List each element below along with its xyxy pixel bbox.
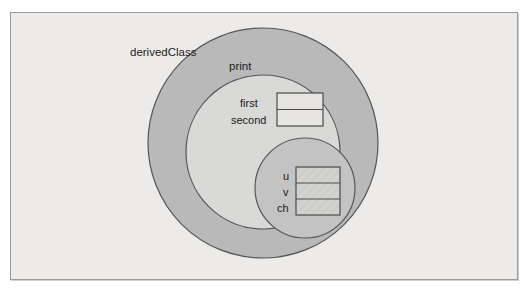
label-first: first (240, 97, 258, 109)
label-print: print (229, 60, 251, 72)
label-u: u (283, 170, 289, 182)
print-locals-box (277, 93, 323, 126)
label-ch: ch (277, 202, 289, 214)
diagram-root: derivedClass print first second u v ch (0, 0, 532, 293)
inner-locals-box (296, 167, 340, 215)
label-v: v (283, 186, 289, 198)
label-derived-class: derivedClass (130, 46, 196, 58)
label-second: second (231, 114, 266, 126)
diagram-canvas (0, 0, 532, 293)
